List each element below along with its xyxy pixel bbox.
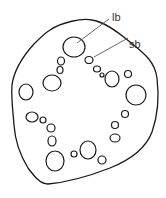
bundle — [98, 156, 106, 164]
bundle — [125, 71, 132, 78]
bundle — [58, 57, 65, 65]
sb-leader-line — [94, 38, 128, 57]
lb-leader-line — [77, 19, 109, 43]
bundle — [100, 73, 104, 77]
bundle — [122, 111, 129, 118]
bundle — [80, 141, 96, 159]
label-lb: lb — [112, 11, 121, 23]
bundle — [110, 134, 120, 142]
bundle — [57, 67, 63, 74]
bundle — [112, 122, 119, 129]
large-bundle-lb — [63, 37, 85, 57]
bundle — [40, 117, 46, 123]
label-sb: sb — [129, 38, 141, 50]
bundle — [43, 75, 61, 91]
leader-lines — [77, 19, 128, 57]
bundle — [26, 112, 38, 122]
bundle — [94, 66, 101, 72]
bundle — [19, 84, 33, 100]
cross-section-diagram: lb sb — [0, 0, 166, 198]
bundle — [71, 151, 77, 157]
bundle — [48, 136, 56, 146]
small-bundle-sb — [85, 57, 93, 64]
bundle — [126, 85, 146, 105]
bundle — [105, 71, 119, 87]
bundle — [46, 151, 64, 171]
bundle — [47, 124, 55, 132]
bundles — [19, 37, 146, 171]
